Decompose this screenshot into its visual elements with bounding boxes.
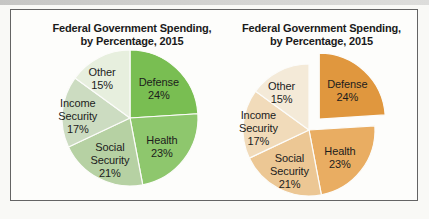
- pie-slice-label-other-orange: Other15%: [268, 80, 295, 105]
- scanned-figure: Federal Government Spending, by Percenta…: [0, 0, 429, 219]
- pie-slice-label-other-green: Other15%: [88, 66, 115, 91]
- pie-charts-svg: Defense24%Health23%SocialSecurity21%Inco…: [0, 0, 429, 219]
